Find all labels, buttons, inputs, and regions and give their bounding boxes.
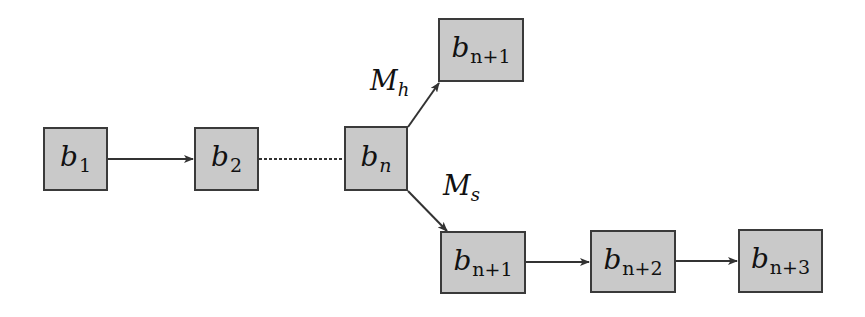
block-bn: bn: [344, 126, 408, 191]
block-b2: b2: [194, 127, 259, 191]
block-label: bn+2: [603, 246, 662, 278]
block-label: bn+1: [451, 34, 510, 66]
edge-label-ms: Ms: [443, 172, 480, 204]
block-bn-plus-1-top: bn+1: [438, 18, 524, 82]
block-bn-plus-1-bottom: bn+1: [440, 231, 526, 294]
edge-bn-to-bn1-bottom: [408, 191, 447, 231]
block-bn-plus-3: bn+3: [738, 229, 823, 293]
block-b1: b1: [43, 127, 108, 191]
blockchain-fork-diagram: b1 b2 bn bn+1 bn+1 bn+2 bn+3 Mh Ms: [0, 0, 865, 317]
edge-label-mh: Mh: [370, 67, 409, 99]
block-label: bn+3: [751, 245, 810, 277]
edge-bn-to-bn1-top: [408, 83, 439, 127]
block-bn-plus-2: bn+2: [590, 230, 676, 293]
block-label: bn+1: [453, 247, 512, 279]
block-label: bn: [360, 143, 391, 175]
edges-layer: [0, 0, 865, 317]
block-label: b1: [60, 143, 91, 175]
block-label: b2: [211, 143, 242, 175]
